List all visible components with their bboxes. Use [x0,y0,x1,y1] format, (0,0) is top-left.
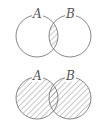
label-a: A [32,7,42,21]
venn-diagrams: A B A B [0,0,103,129]
label-a: A [32,69,42,83]
label-b: B [65,7,75,21]
venn-union: A B [16,69,91,119]
venn-intersection: A B [16,7,91,57]
label-b: B [65,69,75,83]
